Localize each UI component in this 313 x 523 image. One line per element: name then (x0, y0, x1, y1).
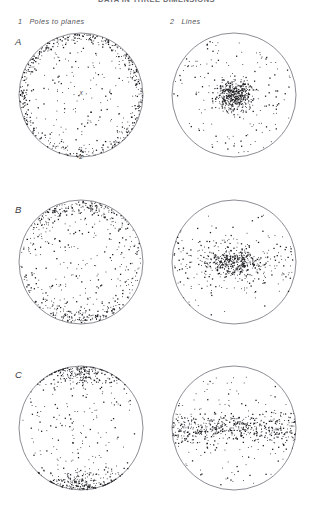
data-points (172, 377, 295, 486)
axis-letter-y: Y (145, 90, 146, 96)
stereonet-c2[interactable] (169, 363, 299, 493)
stereonet-c1[interactable] (16, 363, 146, 493)
primitive-circle (172, 33, 296, 157)
column-number-2: 2 (170, 17, 174, 26)
stereonet-b2[interactable] (169, 197, 299, 327)
primitive-circle (19, 200, 143, 324)
data-points (21, 201, 141, 324)
figure-title: DATA IN THREE DIMENSIONS (0, 0, 313, 2)
column-label-2: Lines (181, 17, 200, 26)
column-label-1: Poles to planes (29, 17, 84, 26)
axis-letter-x: X (78, 90, 83, 96)
stereonet-a2[interactable] (169, 30, 299, 160)
stereonet-canvas-c2 (169, 363, 299, 493)
stereonet-canvas-b2 (169, 197, 299, 327)
stereonet-b1[interactable] (16, 197, 146, 327)
data-points (173, 41, 290, 153)
stereonet-a1[interactable]: XZY (16, 30, 146, 160)
data-points (23, 366, 136, 490)
column-caption-1: 1Poles to planes (18, 17, 85, 26)
stereonet-canvas-a2 (169, 30, 299, 160)
stereonet-canvas-a1: XZY (16, 30, 146, 160)
column-number-1: 1 (18, 17, 22, 26)
data-points (174, 215, 294, 316)
stereonet-figure: DATA IN THREE DIMENSIONS 1Poles to plane… (0, 0, 313, 523)
stereonet-canvas-b1 (16, 197, 146, 327)
column-caption-2: 2Lines (170, 17, 201, 26)
stereonet-canvas-c1 (16, 363, 146, 493)
axis-letter-z: Z (78, 154, 83, 160)
